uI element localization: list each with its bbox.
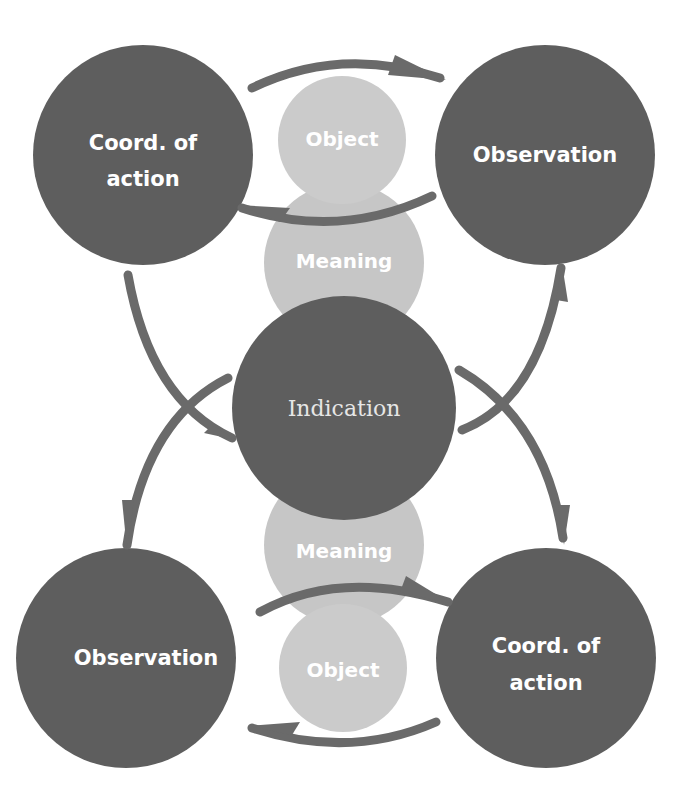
arrow-right-upper-icon xyxy=(462,268,561,430)
arrowhead-icon xyxy=(388,55,446,80)
top-left-node xyxy=(33,45,253,265)
bottom-object-label: Object xyxy=(306,658,380,682)
top-left-label-line2: action xyxy=(106,167,179,191)
cycle-diagram: Coord. of action Observation Object Mean… xyxy=(0,0,688,807)
bottom-right-node xyxy=(436,548,656,768)
bottom-right-label-line1: Coord. of xyxy=(492,634,601,658)
top-object-label: Object xyxy=(305,127,379,151)
bottom-right-label-line2: action xyxy=(509,671,582,695)
top-meaning-label: Meaning xyxy=(296,249,393,273)
center-label: Indication xyxy=(288,396,401,421)
arrow-left-lower-icon xyxy=(127,378,228,545)
top-left-label-line1: Coord. of xyxy=(89,131,198,155)
bottom-left-label: Observation xyxy=(74,646,218,670)
top-right-label: Observation xyxy=(473,143,617,167)
bottom-meaning-label: Meaning xyxy=(296,539,393,563)
